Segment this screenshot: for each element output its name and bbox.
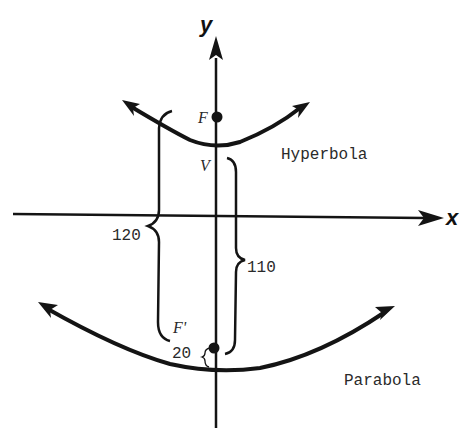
- parabola-left-arrow-icon: [38, 302, 58, 318]
- brace-120: [148, 111, 172, 341]
- diagram-svg: [0, 0, 474, 428]
- brace-110: [225, 158, 245, 354]
- measurement-110-label: 110: [247, 260, 276, 276]
- focus-F-point: [212, 112, 223, 123]
- y-axis-arrow-icon: [209, 36, 223, 60]
- vertex-V-label: V: [200, 158, 210, 174]
- focus-F-prime-point: [209, 343, 220, 354]
- measurement-120-label: 120: [112, 228, 141, 244]
- focus-F-label: F: [198, 110, 208, 126]
- x-axis-label: x: [446, 207, 458, 229]
- parabola-label: Parabola: [344, 373, 421, 389]
- hyperbola-left-arrow-icon: [122, 100, 140, 116]
- hyperbola-label: Hyperbola: [281, 147, 367, 163]
- x-axis: [13, 210, 444, 226]
- focus-F-prime-label: F': [173, 320, 186, 336]
- diagram-canvas: y x F V F' Hyperbola Parabola 120 110 20: [0, 0, 474, 428]
- y-axis-label: y: [200, 14, 212, 36]
- measurement-20-label: 20: [172, 346, 191, 362]
- brace-20: [202, 348, 210, 367]
